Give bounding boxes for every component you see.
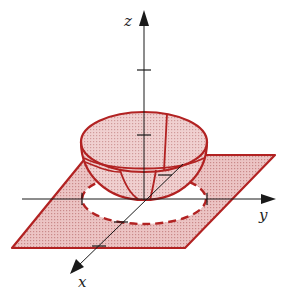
y-axis-label: y bbox=[258, 206, 268, 224]
z-axis-label: z bbox=[123, 12, 132, 30]
z-axis-arrowhead bbox=[139, 10, 149, 26]
x-axis-label: x bbox=[78, 273, 87, 291]
x-axis-arrowhead bbox=[70, 259, 84, 274]
y-axis-arrowhead bbox=[261, 194, 276, 204]
hemisphere-diagram: z y x bbox=[0, 0, 300, 294]
